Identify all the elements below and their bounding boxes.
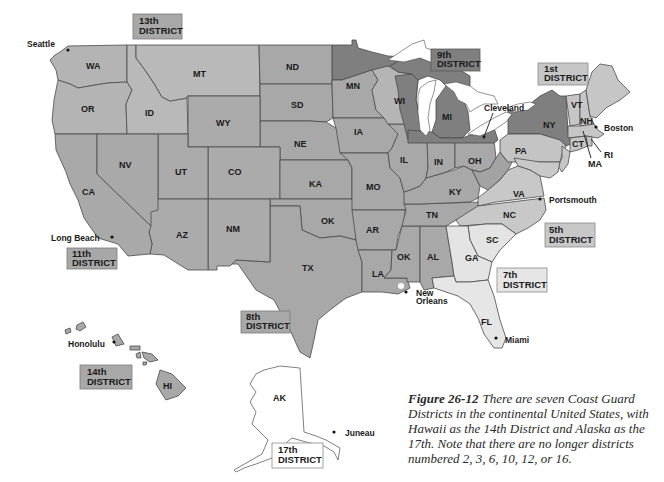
label-ia: IA xyxy=(354,127,364,137)
district-box-11: 11th DISTRICT xyxy=(67,248,117,269)
city-portsmouth-dot xyxy=(538,197,541,200)
label-hi: HI xyxy=(163,381,172,391)
district-13-line2: DISTRICT xyxy=(139,25,183,36)
label-ak: AK xyxy=(273,393,286,403)
state-nm xyxy=(208,199,270,270)
label-ma: MA xyxy=(588,159,602,169)
label-ar: AR xyxy=(366,225,379,235)
delta-lake xyxy=(398,283,404,289)
district-box-7: 7th DISTRICT xyxy=(497,268,547,292)
city-cleveland-dot xyxy=(483,136,486,139)
label-ny: NY xyxy=(543,120,556,130)
label-or: OR xyxy=(81,104,95,114)
district-box-17: 17th DISTRICT xyxy=(272,443,323,468)
state-co xyxy=(208,147,280,199)
label-il: IL xyxy=(400,155,409,165)
label-nh: NH xyxy=(580,116,593,126)
label-ms: OK xyxy=(397,252,411,262)
label-mo: MO xyxy=(366,182,381,192)
label-nm: NM xyxy=(226,224,240,234)
figure-label: Figure 26-12 xyxy=(408,391,478,406)
label-pa: PA xyxy=(515,146,527,156)
label-sd: SD xyxy=(291,100,304,110)
city-juneau-dot xyxy=(332,430,335,433)
label-al: AL xyxy=(427,252,439,262)
label-nv: NV xyxy=(119,160,132,170)
district-box-13: 13th DISTRICT xyxy=(133,14,183,39)
city-miami-dot xyxy=(494,336,497,339)
label-la: LA xyxy=(372,269,384,279)
district-11-line2: DISTRICT xyxy=(72,257,116,268)
district-box-9: 9th DISTRICT xyxy=(431,49,481,71)
island-maui xyxy=(142,352,158,362)
label-id: ID xyxy=(145,108,155,118)
city-portsmouth-label: Portsmouth xyxy=(549,195,597,205)
label-mt: MT xyxy=(193,69,206,79)
district-5-line2: DISTRICT xyxy=(549,234,593,245)
label-ut: UT xyxy=(175,167,187,177)
label-ok: OK xyxy=(321,216,335,226)
label-az: AZ xyxy=(176,230,188,240)
district-14-line2: DISTRICT xyxy=(87,376,131,387)
district-17-line2: DISTRICT xyxy=(278,454,322,465)
city-juneau-label: Juneau xyxy=(345,428,375,438)
city-new-orleans-dot xyxy=(404,290,407,293)
city-seattle-dot xyxy=(66,48,69,51)
figure-caption: Figure 26-12There are seven Coast Guard … xyxy=(408,391,664,466)
pointer-ri xyxy=(591,139,601,152)
label-wi: WI xyxy=(394,96,405,106)
island-niihau xyxy=(65,328,71,334)
island-kahoolawe xyxy=(143,362,147,365)
label-oh: OH xyxy=(468,156,482,166)
island-lanai xyxy=(136,352,141,358)
district-box-14: 14th DISTRICT xyxy=(80,365,132,389)
city-new-orleans-label-2: Orleans xyxy=(416,296,448,306)
label-mn: MN xyxy=(346,81,360,91)
label-ka: KA xyxy=(309,179,322,189)
island-oahu xyxy=(112,334,124,346)
district-1-line2: DISTRICT xyxy=(544,72,588,83)
state-me xyxy=(586,64,630,118)
label-tn: TN xyxy=(426,210,438,220)
label-fl: FL xyxy=(481,317,492,327)
label-ky: KY xyxy=(449,187,462,197)
label-mi: MI xyxy=(442,112,452,122)
label-ca: CA xyxy=(82,187,95,197)
label-va: VA xyxy=(513,189,525,199)
city-honolulu-label: Honolulu xyxy=(68,339,105,349)
city-cleveland-label: Cleveland xyxy=(484,103,524,113)
district-box-1: 1st DISTRICT xyxy=(538,63,588,85)
city-long-beach-dot xyxy=(110,235,113,238)
label-ct: CT xyxy=(572,139,584,149)
city-boston-label: Boston xyxy=(604,123,633,133)
island-kauai xyxy=(76,322,86,331)
city-miami-label: Miami xyxy=(505,335,529,345)
city-long-beach-label: Long Beach xyxy=(51,233,100,243)
label-vt: VT xyxy=(571,100,583,110)
district-8-line2: DISTRICT xyxy=(246,320,290,331)
district-box-5: 5th DISTRICT xyxy=(545,223,595,247)
island-molokai xyxy=(130,346,140,350)
city-honolulu-dot xyxy=(112,340,115,343)
city-seattle-label: Seattle xyxy=(27,39,55,49)
label-tx: TX xyxy=(302,263,314,273)
label-wa: WA xyxy=(86,61,101,71)
label-sc: SC xyxy=(486,235,499,245)
district-9-line2: DISTRICT xyxy=(437,58,481,69)
label-wy: WY xyxy=(216,118,231,128)
label-co: CO xyxy=(228,167,242,177)
city-boston-dot xyxy=(594,125,597,128)
district-box-8: 8th DISTRICT xyxy=(241,311,290,333)
label-ne: NE xyxy=(294,139,307,149)
label-ga: GA xyxy=(465,253,479,263)
label-in: IN xyxy=(434,157,443,167)
district-7-line2: DISTRICT xyxy=(503,279,547,290)
label-ri: RI xyxy=(604,150,613,160)
label-nd: ND xyxy=(286,62,299,72)
state-vt xyxy=(566,94,580,126)
label-nc: NC xyxy=(503,210,516,220)
